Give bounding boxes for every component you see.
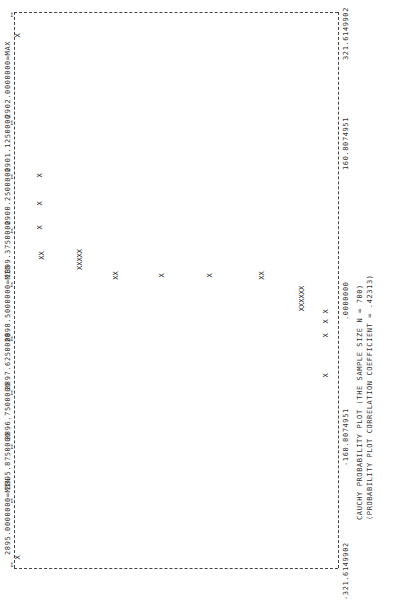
x-tick-label: -160.8074951 (342, 408, 350, 466)
data-point: X (323, 309, 330, 313)
data-point: X (37, 201, 44, 205)
data-point: X (37, 225, 44, 229)
plot-title: CAUCHY PROBABILITY PLOT (THE SAMPLE SIZE… (356, 284, 364, 520)
data-point-run: XX (39, 251, 46, 259)
y-axis-right (338, 12, 339, 568)
data-point: X (323, 373, 330, 377)
data-point: X (15, 33, 22, 37)
data-point-run: XXXXXX (299, 286, 306, 311)
plot-area: X X X X X XXXXXX XX X X XX XXXXX XX X X … (14, 12, 338, 568)
x-axis-bottom (14, 568, 338, 569)
data-point: X (207, 273, 214, 277)
data-point: X (15, 555, 22, 559)
plot-subtitle: (PROBABILITY PLOT CORRELATION COEFFICIEN… (366, 274, 374, 520)
data-point: X (323, 319, 330, 323)
probability-plot-page: 2902.0000000=MAX 2901.1250000 2900.25000… (0, 0, 403, 613)
data-point: X (159, 273, 166, 277)
data-point-run: XXXXX (77, 249, 84, 270)
data-point-run: XX (259, 271, 266, 279)
x-tick-label: 321.6149902 (342, 7, 350, 60)
data-point: X (323, 333, 330, 337)
data-point-run: XX (113, 271, 120, 279)
data-point: X (37, 173, 44, 177)
x-tick-label: .0000000 (342, 281, 350, 320)
x-tick-label: -321.6149902 (342, 542, 350, 600)
x-tick-label: 160.8074951 (342, 117, 350, 170)
